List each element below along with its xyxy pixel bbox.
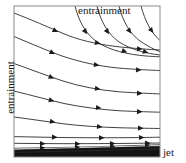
plot-background: [14, 6, 160, 157]
streamline-figure: entrainment entrainment jet: [0, 0, 186, 163]
entrainment-top-label: entrainment: [78, 5, 131, 16]
entrainment-left-label: entrainment: [5, 61, 16, 114]
jet-label: jet: [163, 147, 174, 158]
flow-field-svg: [0, 0, 186, 163]
